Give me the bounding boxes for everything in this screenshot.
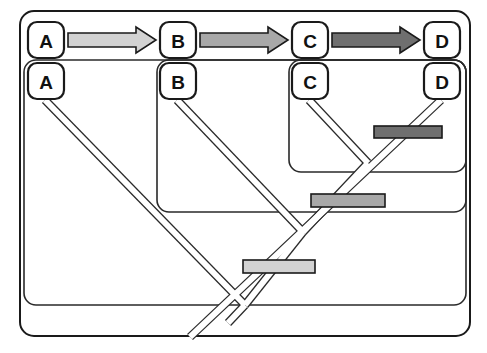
sequence-node-d: D: [424, 22, 460, 58]
character-bar-cd: [374, 126, 442, 138]
tree-node-b-label: B: [171, 72, 185, 93]
tree-node-d: D: [424, 63, 460, 99]
sequence-node-b-label: B: [171, 31, 185, 52]
sequence-node-a: A: [28, 22, 64, 58]
sequence-node-c-label: C: [303, 31, 317, 52]
tree-node-d-label: D: [435, 72, 449, 93]
tree-node-b: B: [160, 63, 196, 99]
figure-canvas: ABCD ABCD: [0, 0, 487, 353]
sequence-node-b: B: [160, 22, 196, 58]
sequence-node-c: C: [292, 22, 328, 58]
tree-node-a-label: A: [39, 72, 53, 93]
nested-cladogram-svg: ABCD ABCD: [0, 0, 487, 353]
tree-node-a: A: [28, 63, 64, 99]
tree-node-c-label: C: [303, 72, 317, 93]
sequence-node-d-label: D: [435, 31, 449, 52]
sequence-node-a-label: A: [39, 31, 53, 52]
character-bar-abcd: [243, 260, 315, 273]
tree-node-c: C: [292, 63, 328, 99]
character-bar-bcd: [311, 194, 385, 207]
